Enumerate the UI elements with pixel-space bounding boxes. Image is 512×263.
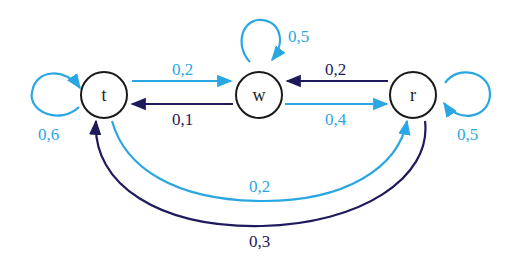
edge-w-r: 0,4 [285, 104, 387, 129]
edge-w-t: 0,1 [132, 104, 233, 129]
edge-t-r: 0,2 [112, 121, 407, 201]
node-w: w [236, 72, 282, 118]
edge-label: 0,6 [38, 125, 59, 144]
node-label: t [101, 85, 106, 105]
node-t: t [81, 72, 127, 118]
edge-label: 0,5 [288, 27, 309, 46]
edge-r-w: 0,2 [287, 60, 388, 81]
edge-label: 0,1 [172, 110, 193, 129]
node-label: w [253, 85, 266, 105]
markov-chain-diagram: 0,6 0,5 0,5 0,2 0,1 0,2 0,4 0,2 0,3 [0, 0, 512, 263]
edge-label: 0,2 [249, 177, 270, 196]
edge-label: 0,3 [249, 232, 270, 251]
edge-label: 0,2 [325, 60, 346, 79]
edge-t-t: 0,6 [32, 73, 80, 144]
edge-label: 0,5 [457, 125, 478, 144]
edge-t-w: 0,2 [132, 60, 231, 81]
node-label: r [410, 85, 416, 105]
edge-label: 0,4 [325, 110, 347, 129]
edge-label: 0,2 [172, 60, 193, 79]
edge-w-w: 0,5 [242, 20, 310, 62]
edge-r-r: 0,5 [444, 72, 490, 144]
node-r: r [390, 72, 436, 118]
